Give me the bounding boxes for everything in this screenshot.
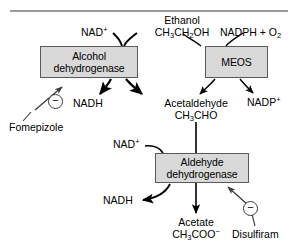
label-nadh-bottom: NADH [103, 194, 133, 206]
inhibition-symbol-fomepizole: − [48, 94, 63, 109]
label-nadh-top: NADH [73, 97, 103, 109]
label-nad-plus-top: NAD+ [81, 26, 108, 38]
pathway-diagram: Alcohol dehydrogenase MEOS Aldehyde dehy… [0, 0, 296, 250]
label-ethanol-name: Ethanol [139, 14, 225, 26]
enzyme-box-alcohol-dehydrogenase: Alcohol dehydrogenase [40, 46, 138, 78]
label-acetate-formula: CH3COO− [150, 228, 242, 240]
label-disulfiram: Disulfiram [232, 228, 279, 240]
label-acetaldehyde-formula: CH3CHO [144, 109, 248, 121]
enzyme-label-meos: MEOS [221, 56, 252, 68]
enzyme-label-line1: Aldehyde [181, 156, 224, 168]
label-nadp-plus: NADP+ [247, 96, 281, 108]
label-nad-plus-bottom: NAD+ [113, 138, 140, 150]
inhibition-symbol-disulfiram: − [243, 201, 258, 216]
enzyme-label-line2: dehydrogenase [166, 168, 237, 180]
label-acetate-name: Acetate [152, 216, 240, 228]
enzyme-label-line1: Alcohol [72, 50, 106, 62]
enzyme-box-aldehyde-dehydrogenase: Aldehyde dehydrogenase [155, 153, 249, 183]
label-acetaldehyde-name: Acetaldehyde [137, 97, 255, 109]
enzyme-label-line2: dehydrogenase [53, 62, 124, 74]
enzyme-box-meos: MEOS [205, 46, 268, 78]
label-fomepizole: Fomepizole [9, 121, 63, 133]
label-nadph-o2: NADPH + O2 [220, 26, 281, 38]
